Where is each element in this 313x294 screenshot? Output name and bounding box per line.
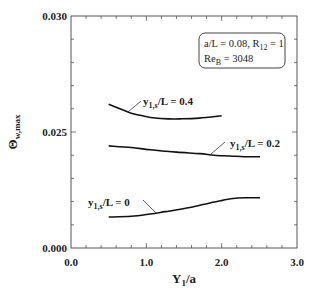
series-label-1: y1,s/L = 0.2 (230, 137, 280, 152)
leader-line-series-2 (143, 200, 156, 213)
x-tick-label: 0.0 (64, 256, 78, 268)
series-label-0: y1,s/L = 0.4 (143, 95, 193, 110)
leader-line-series-0 (128, 101, 141, 112)
y-tick-label: 0.025 (42, 126, 67, 138)
leader-line-series-1 (211, 142, 225, 154)
x-tick-label: 3.0 (290, 256, 304, 268)
y-axis-title: Θw,max (5, 114, 22, 149)
chart: 0.01.02.03.0 0.0000.0250.030 y1,s/L = 0.… (0, 0, 313, 294)
y-tick-label: 0.000 (42, 242, 67, 254)
series-label-2: y1,s/L = 0 (88, 196, 130, 211)
series-lines (109, 104, 260, 217)
y-axis-tick-labels: 0.0000.0250.030 (42, 10, 67, 254)
x-tick-label: 2.0 (215, 256, 229, 268)
x-tick-label: 1.0 (139, 256, 153, 268)
x-axis-tick-labels: 0.01.02.03.0 (64, 256, 304, 268)
y-tick-label: 0.030 (42, 10, 67, 22)
x-axis-title: Y1/a (172, 271, 197, 288)
series-line-2 (109, 198, 260, 217)
